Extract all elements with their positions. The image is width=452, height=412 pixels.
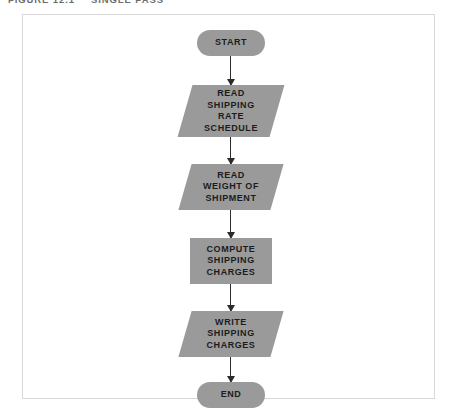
connector-compute-charges-to-write-charges: [226, 284, 236, 311]
flow-node-read-weight-label: READ WEIGHT OF SHIPMENT: [203, 170, 259, 205]
flow-node-end[interactable]: END: [197, 382, 265, 408]
connector-write-charges-to-end: [226, 357, 236, 382]
connector-read-rate-schedule-to-read-weight: [226, 137, 236, 164]
figure-title: SINGLE PASS: [91, 0, 164, 5]
flow-node-compute-charges[interactable]: COMPUTE SHIPPING CHARGES: [190, 238, 272, 284]
connector-start-to-read-rate-schedule: [226, 56, 236, 85]
flow-node-start-label: START: [215, 37, 247, 49]
connector-read-weight-to-compute-charges: [226, 210, 236, 238]
flow-node-compute-charges-label: COMPUTE SHIPPING CHARGES: [207, 244, 256, 279]
figure-caption: FIGURE 12.1SINGLE PASS: [8, 0, 164, 6]
diagram-frame: START READ SHIPPING RATE SCHEDULE READ W…: [22, 14, 435, 399]
figure-number: FIGURE 12.1: [8, 0, 75, 5]
flow-node-write-charges[interactable]: WRITE SHIPPING CHARGES: [185, 311, 277, 357]
flow-node-start[interactable]: START: [197, 30, 265, 56]
flow-node-read-rate-schedule[interactable]: READ SHIPPING RATE SCHEDULE: [185, 85, 277, 137]
flow-node-end-label: END: [221, 389, 242, 401]
flowchart: START READ SHIPPING RATE SCHEDULE READ W…: [23, 15, 436, 400]
flow-node-read-weight[interactable]: READ WEIGHT OF SHIPMENT: [185, 164, 277, 210]
flow-node-read-rate-schedule-label: READ SHIPPING RATE SCHEDULE: [204, 88, 258, 134]
flow-node-write-charges-label: WRITE SHIPPING CHARGES: [207, 317, 256, 352]
